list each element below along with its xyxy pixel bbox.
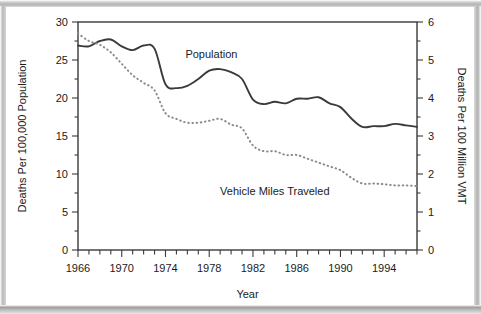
x-axis-title: Year [236,288,259,300]
y-axis-tick-label: 30 [56,16,68,28]
x-axis-tick-label: 1994 [372,262,396,274]
frame-bevel-top [0,0,481,7]
y2-axis-tick-label: 4 [428,92,434,104]
population-label: Population [185,48,237,60]
y2-axis-tick-label: 3 [428,130,434,142]
chart-card: 0510152025300123456196619701974197819821… [6,7,474,305]
x-axis-tick-label: 1974 [153,262,177,274]
line-chart: 0510152025300123456196619701974197819821… [6,7,474,305]
vmt-label: Vehicle Miles Traveled [220,185,329,197]
y2-axis-tick-label: 1 [428,206,434,218]
series-line-2 [78,33,417,186]
y-axis-title: Deaths Per 100,000 Population [16,60,28,213]
y2-axis-title: Deaths Per 100 Million VMT [456,68,468,205]
y2-axis-tick-label: 0 [428,244,434,256]
plot-frame [78,22,417,250]
series-line-1 [78,39,417,127]
x-axis-tick-label: 1966 [66,262,90,274]
y-axis-tick-label: 15 [56,130,68,142]
y2-axis-tick-label: 5 [428,54,434,66]
y-axis-tick-label: 20 [56,92,68,104]
y-axis-tick-label: 0 [62,244,68,256]
figure-frame: 0510152025300123456196619701974197819821… [0,0,481,314]
y-axis-tick-label: 5 [62,206,68,218]
y-axis-tick-label: 25 [56,54,68,66]
y-axis-tick-label: 10 [56,168,68,180]
y2-axis-tick-label: 2 [428,168,434,180]
y2-axis-tick-label: 6 [428,16,434,28]
x-axis-tick-label: 1970 [109,262,133,274]
frame-bevel-right [474,6,481,306]
x-axis-tick-label: 1990 [328,262,352,274]
frame-bevel-bottom [0,305,481,314]
x-axis-tick-label: 1978 [197,262,221,274]
x-axis-tick-label: 1986 [284,262,308,274]
x-axis-tick-label: 1982 [241,262,265,274]
